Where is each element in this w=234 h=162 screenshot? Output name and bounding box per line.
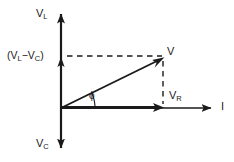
label-phase-angle: ϕ (89, 91, 95, 101)
phasor-diagram: VL VC (VL−VC) V VR I ϕ (0, 0, 234, 162)
axis-label-current: I (221, 101, 224, 112)
resistive-voltage-vector (61, 103, 164, 112)
label-resultant-voltage: V (167, 46, 174, 57)
resultant-voltage-line (61, 61, 157, 108)
resultant-voltage-vector (61, 57, 165, 108)
axis-label-vc: VC (36, 138, 49, 149)
axis-label-vl: VL (36, 8, 48, 19)
label-net-reactive-voltage: (VL−VC) (7, 50, 44, 61)
label-resistive-voltage: VR (169, 90, 182, 101)
